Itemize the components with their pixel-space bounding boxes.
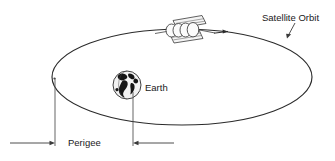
- satellite-body-icon: [166, 23, 199, 38]
- perigee-left-dimension-arrow: [10, 141, 55, 146]
- earth-label: Earth: [145, 82, 168, 93]
- satellite-orbit-leader-line: [286, 23, 295, 39]
- orbit-left-vertex-marker: [53, 77, 55, 79]
- perigee-right-dimension-arrow: [133, 141, 174, 146]
- satellite-orbit-label: Satellite Orbit: [262, 12, 319, 23]
- diagram-canvas: Earth Satellite Orbit Perigee: [0, 0, 335, 161]
- perigee-label: Perigee: [68, 137, 101, 148]
- satellite-orbit-diagram: Earth Satellite Orbit Perigee: [0, 0, 335, 161]
- orbit-ellipse: [52, 29, 312, 125]
- earth-globe-icon: [113, 71, 141, 99]
